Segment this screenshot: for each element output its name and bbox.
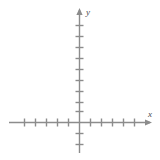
- x-axis-arrowhead: [145, 119, 152, 125]
- x-axis-label: x: [147, 109, 152, 119]
- coordinate-axes-figure: x y: [0, 0, 160, 160]
- y-axis-label: y: [85, 7, 90, 17]
- y-axis-group: [76, 8, 84, 153]
- x-axis-group: [9, 119, 152, 127]
- y-axis-arrowhead: [76, 8, 82, 15]
- axes-svg: x y: [0, 0, 160, 160]
